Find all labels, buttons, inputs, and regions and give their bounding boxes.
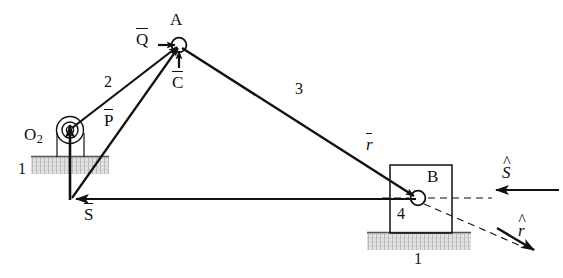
- point-label-A: A: [170, 11, 182, 28]
- point-label-O2-subscript: 2: [37, 132, 43, 146]
- link-label-1-left: 1: [18, 161, 26, 177]
- link-label-4: 4: [397, 206, 405, 222]
- vector-label-Q: Q: [136, 31, 148, 48]
- link-2-line: [72, 47, 177, 128]
- vector-label-Q-text: Q: [136, 31, 148, 48]
- link-label-2: 2: [104, 74, 112, 90]
- point-label-O2: O2: [24, 126, 43, 146]
- point-label-B: B: [427, 168, 438, 185]
- joint-A: [172, 38, 187, 53]
- vector-label-r-text: r: [366, 136, 373, 153]
- unit-vector-r-arrow: [497, 228, 534, 250]
- unit-vector-label-r-text: r: [518, 222, 525, 239]
- mechanism-diagram: A B O2 1 2 3 4 1 Q C P S r S r: [0, 0, 563, 278]
- mechanism-drawing-canvas: [0, 0, 563, 278]
- link-3-line: [182, 48, 414, 196]
- ground-hatch-right: [367, 233, 471, 251]
- vector-label-C-text: C: [172, 74, 183, 91]
- point-label-O2-base: O: [24, 125, 36, 144]
- unit-vector-label-S: S: [502, 164, 511, 181]
- link-label-1-right: 1: [414, 251, 422, 267]
- vector-label-P-text: P: [104, 112, 113, 129]
- unit-vector-label-S-text: S: [502, 164, 511, 181]
- vector-label-C: C: [172, 74, 183, 91]
- vector-label-S: S: [84, 206, 93, 223]
- vector-label-P: P: [104, 112, 113, 129]
- vector-P-line: [72, 48, 178, 198]
- unit-vector-label-r: r: [518, 222, 525, 239]
- vector-label-r: r: [366, 136, 373, 153]
- vector-label-S-text: S: [84, 206, 93, 223]
- link-label-3: 3: [295, 81, 303, 97]
